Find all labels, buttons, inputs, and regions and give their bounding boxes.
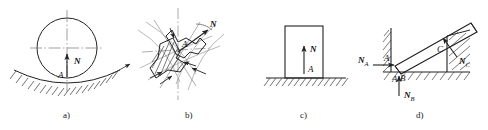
- force-label-n-b: N: [210, 19, 217, 29]
- force-label-nc-d: NC: [459, 56, 470, 68]
- ground-hatching-c: [264, 78, 348, 86]
- caption-b: b): [185, 110, 193, 120]
- force-label-n-a: N: [74, 56, 81, 66]
- point-label-a-c: A: [308, 64, 314, 74]
- force-label-nb-d: NB: [404, 90, 414, 102]
- point-label-a-a: A: [58, 70, 64, 80]
- ground-hatching-a: [10, 71, 118, 96]
- bar-end-d: [471, 23, 477, 32]
- point-label-b-d: B: [400, 73, 406, 83]
- wall-hatching-d: [383, 30, 391, 72]
- force-label-n-c: N: [310, 44, 317, 54]
- point-label-a-d: A: [384, 53, 390, 63]
- point-label-a2-d: A: [392, 74, 398, 84]
- panel-b: [112, 8, 224, 100]
- force-arrow-nc-d: [443, 38, 457, 57]
- caption-c: c): [300, 110, 307, 120]
- caption-a: a): [63, 110, 70, 120]
- panel-a: [10, 10, 120, 96]
- caption-d: d): [416, 110, 424, 120]
- point-label-a-b: A: [182, 39, 188, 49]
- stray-arrow-b: [112, 64, 130, 74]
- panel-c: [264, 26, 348, 86]
- point-label-c-d: C: [437, 44, 443, 54]
- force-label-na-d: NA: [358, 55, 368, 67]
